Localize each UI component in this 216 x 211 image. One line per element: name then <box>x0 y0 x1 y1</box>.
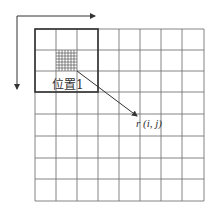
fine-grid-cell <box>56 50 77 71</box>
main-grid <box>35 29 204 201</box>
diagram-canvas <box>0 0 216 211</box>
position-label: 位置1 <box>52 75 84 92</box>
result-label: r (i, j) <box>136 117 162 129</box>
mapping-arrow <box>77 71 137 116</box>
